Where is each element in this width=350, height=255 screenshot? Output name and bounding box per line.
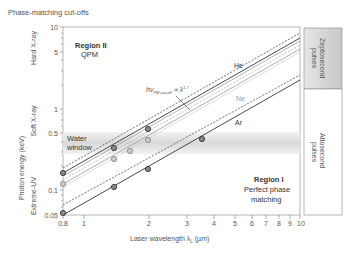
svg-text:hνPM cut-off∝ λ1.7: hνPM cut-off∝ λ1.7	[146, 85, 189, 95]
series-ne	[63, 45, 300, 187]
euv-band-label: Extreme-UV	[30, 177, 37, 215]
y-tick-5: 5	[54, 49, 58, 56]
x-tick-10: 10	[297, 220, 305, 227]
x-tick-7: 7	[264, 220, 268, 227]
x-tick-5: 5	[233, 220, 237, 227]
x-tick-9: 9	[288, 220, 292, 227]
attosecond-label-2: pulses	[310, 142, 318, 163]
x-tick-2: 2	[147, 220, 151, 227]
y-axis-title: Photon energy (keV)	[18, 136, 26, 200]
series-he	[63, 33, 300, 176]
x-tick-8: 8	[277, 220, 281, 227]
x-ticks	[63, 215, 300, 219]
qpm-label: QPM	[81, 50, 98, 59]
y-tick-10: 10	[50, 24, 58, 31]
y-tick-0.1: 0.1	[48, 187, 58, 194]
water-window-band	[63, 132, 300, 154]
hard-xray-band-label: Hard X-ray	[30, 31, 38, 65]
perfect-phase-label-1: Perfect phase	[244, 185, 290, 194]
soft-xray-band-label: Soft X-ray	[30, 105, 38, 137]
chart-title: Phase-matching cut-offs	[8, 8, 89, 17]
x-tick-3: 3	[185, 220, 189, 227]
region-1-label: Region I	[254, 175, 284, 184]
region-2-label: Region II	[75, 41, 107, 50]
ar-label: Ar	[235, 119, 243, 126]
zeptosecond-label-2: pulses	[310, 48, 318, 69]
zeptosecond-label-1: Zeptosecond	[318, 38, 326, 79]
scaling-formula: hνPM cut-off∝ λ1.7	[146, 85, 190, 110]
x-tick-4: 4	[212, 220, 216, 227]
y-tick-0.05: 0.05	[44, 212, 58, 219]
water-window-label-2: window	[66, 143, 93, 152]
attosecond-label-1: Attosecond	[319, 133, 326, 168]
y-tick-1: 1	[54, 106, 58, 113]
ne-label: Ne	[236, 95, 245, 102]
phase-matching-chart: Phase-matching cut-offs Water window Zep…	[0, 0, 350, 255]
water-window-label-1: Water	[67, 134, 87, 143]
he-label: He	[234, 62, 243, 69]
perfect-phase-label-2: matching	[251, 195, 281, 204]
x-tick-6: 6	[250, 220, 254, 227]
x-axis-title: Laser wavelength λL (µm)	[130, 235, 209, 244]
x-tick-1: 1	[82, 220, 86, 227]
y-tick-0.5: 0.5	[48, 130, 58, 137]
x-tick-0.8: 0.8	[58, 220, 68, 227]
